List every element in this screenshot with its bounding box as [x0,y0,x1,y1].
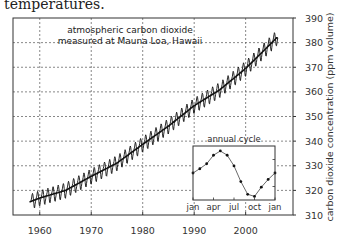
inset-x-tick-label: oct [248,202,262,212]
annual-cycle-point [267,178,270,181]
annual-cycle-point [246,193,249,196]
inset-title: annual cycle [207,134,261,144]
x-axis: 19601970198019902000 [28,212,258,236]
inset-x-tick-label: jul [228,202,239,212]
annual-cycle-point [205,162,208,165]
inset-x-tick-label: jan [268,202,282,212]
annual-cycle-point [219,150,222,153]
inset-annual-cycle: annual cycle janaprjuloctjan [186,134,282,212]
y-axis: 310320330340350360370380390 [293,13,323,221]
annual-cycle-point [253,195,256,198]
y-tick-label: 310 [305,210,323,221]
annual-cycle-point [212,154,215,157]
annual-cycle-point [239,180,242,183]
y-tick-label: 380 [305,37,323,48]
inset-background [193,146,275,200]
y-tick-label: 340 [305,136,323,147]
x-tick-label: 1970 [79,225,103,236]
inset-x-tick-label: jan [186,202,200,212]
x-tick-label: 1960 [28,225,52,236]
chart-title-line-2: measured at Mauna Loa, Hawaii [58,36,203,46]
y-tick-label: 370 [305,62,323,73]
co2-chart: 310320330340350360370380390 196019701980… [0,0,338,244]
y-tick-label: 350 [305,111,323,122]
annual-cycle-point [260,186,263,189]
annual-cycle-point [226,154,229,157]
y-axis-title: carbon dioxide concentration (ppm volume… [324,13,335,222]
x-tick-label: 1990 [182,225,206,236]
y-tick-label: 330 [305,160,323,171]
annual-cycle-point [233,164,236,167]
chart-title-line-1: atmospheric carbon dioxide [67,25,193,35]
y-tick-label: 320 [305,185,323,196]
x-tick-label: 1980 [131,225,155,236]
inset-x-tick-label: apr [206,202,221,212]
annual-cycle-point [198,167,201,170]
y-tick-label: 360 [305,86,323,97]
y-tick-label: 390 [305,13,323,24]
x-tick-label: 2000 [234,225,258,236]
